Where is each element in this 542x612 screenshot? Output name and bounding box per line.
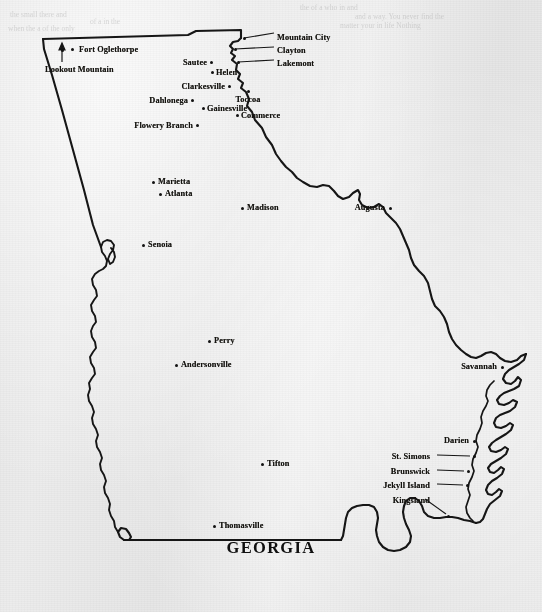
city-dot <box>228 85 231 88</box>
label-leader-lines <box>235 33 470 514</box>
city-label: Lookout Mountain <box>45 66 114 74</box>
georgia-state-outline <box>0 0 542 612</box>
city-dot <box>210 61 213 64</box>
city-label: Kingsland <box>393 497 430 505</box>
city-dot <box>243 37 246 40</box>
city-dot <box>71 48 74 51</box>
city-dot <box>211 71 214 74</box>
city-dot <box>196 124 199 127</box>
city-dot <box>501 366 504 369</box>
city-label: Tifton <box>267 460 290 468</box>
city-label: Fort Oglethorpe <box>79 46 138 54</box>
city-dot <box>467 470 470 473</box>
city-label: Thomasville <box>219 522 263 530</box>
city-dot <box>236 114 239 117</box>
city-label: St. Simons <box>392 453 430 461</box>
city-dot <box>202 107 205 110</box>
city-label: Brunswick <box>391 468 430 476</box>
city-dot <box>237 61 240 64</box>
city-dot <box>175 364 178 367</box>
city-dot <box>473 440 476 443</box>
city-dot <box>261 463 264 466</box>
city-dot <box>61 49 64 52</box>
city-label: Commerce <box>241 112 280 120</box>
city-dot <box>447 515 450 518</box>
map-title: GEORGIA <box>0 538 542 558</box>
city-label: Helen <box>216 69 237 77</box>
city-dot <box>152 181 155 184</box>
city-dot <box>234 48 237 51</box>
city-label: Clayton <box>277 47 306 55</box>
city-label: Marietta <box>158 178 190 186</box>
city-label: Clarkesville <box>181 83 225 91</box>
city-label: Jekyll Island <box>383 482 430 490</box>
city-dot <box>191 99 194 102</box>
city-dot <box>142 244 145 247</box>
city-label: Madison <box>247 204 279 212</box>
city-label: Darien <box>444 437 469 445</box>
city-dot <box>389 207 392 210</box>
city-label: Senoia <box>148 241 172 249</box>
city-dot <box>466 484 469 487</box>
city-label: Savannah <box>461 363 497 371</box>
city-dot <box>208 340 211 343</box>
city-label: Lakemont <box>277 60 314 68</box>
map-canvas: the of a who in andand a way. You never … <box>0 0 542 612</box>
city-label: Andersonville <box>181 361 232 369</box>
city-label: Flowery Branch <box>134 122 193 130</box>
city-label: Dahlonega <box>149 97 188 105</box>
city-dot <box>241 207 244 210</box>
city-dot <box>473 455 476 458</box>
city-label: Atlanta <box>165 190 192 198</box>
city-dot <box>213 525 216 528</box>
city-label: Augusta <box>355 204 385 212</box>
city-label: Perry <box>214 337 235 345</box>
city-label: Sautee <box>183 59 207 67</box>
city-dot <box>159 193 162 196</box>
city-dot <box>247 90 250 93</box>
city-label: Mountain City <box>277 34 331 42</box>
lookout-mountain-arrow <box>59 43 65 62</box>
